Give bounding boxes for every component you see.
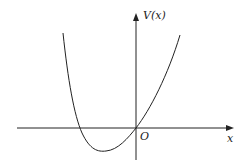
- y-axis-arrow-icon: [133, 13, 139, 21]
- origin-label: O: [140, 130, 149, 143]
- x-axis-label: x: [227, 132, 233, 145]
- y-axis-label: V(x): [143, 9, 166, 22]
- potential-curve: [63, 33, 180, 151]
- x-axis-arrow-icon: [226, 125, 234, 131]
- potential-graph: [0, 0, 249, 166]
